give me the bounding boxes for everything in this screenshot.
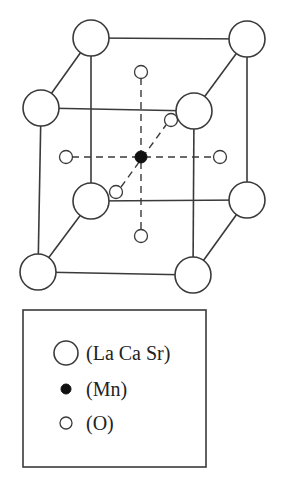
- legend-large-circle-icon: [54, 341, 78, 365]
- edge-front-bottom: [38, 272, 193, 275]
- edge-front-left: [38, 108, 41, 272]
- corner-atom-back-bottom-left: [73, 183, 109, 219]
- oxygen-atom-right: [214, 151, 227, 164]
- corner-atom-back-top-left: [73, 20, 109, 56]
- corner-atom-front-top-right: [176, 93, 212, 129]
- oxygen-atom-top: [135, 66, 148, 79]
- legend-label-la-ca-sr: (La Ca Sr): [86, 342, 170, 365]
- edge-front-top: [41, 108, 194, 111]
- edge-front-right: [193, 111, 194, 275]
- corner-atom-front-top-left: [23, 90, 59, 126]
- oxygen-atom-bottom: [135, 230, 148, 243]
- corner-atom-front-bottom-left: [20, 254, 56, 290]
- oxygen-atom-left: [60, 151, 73, 164]
- legend-label-o: (O): [86, 412, 114, 435]
- perovskite-structure-diagram: (La Ca Sr) (Mn) (O): [0, 0, 282, 485]
- legend-filled-dot-icon: [61, 384, 71, 394]
- legend: (La Ca Sr) (Mn) (O): [23, 310, 206, 467]
- edge-back-top: [91, 38, 247, 39]
- edge-back-bottom: [91, 200, 247, 201]
- corner-atom-front-bottom-right: [175, 257, 211, 293]
- manganese-atom-center: [135, 151, 147, 163]
- corner-atom-back-bottom-right: [229, 182, 265, 218]
- legend-small-circle-icon: [60, 417, 72, 429]
- legend-label-mn: (Mn): [86, 378, 127, 401]
- corner-atom-back-top-right: [229, 21, 265, 57]
- oxygen-atom-back: [165, 114, 178, 127]
- oxygen-atom-front: [110, 186, 123, 199]
